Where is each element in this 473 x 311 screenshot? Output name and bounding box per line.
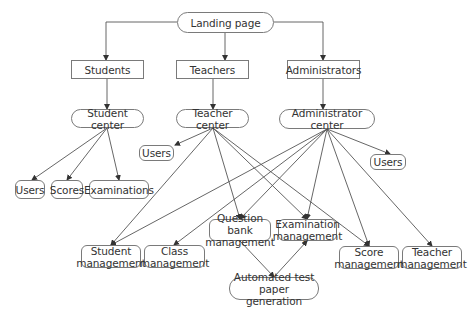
node-teachers[interactable]: Teachers	[176, 60, 249, 79]
edge-arrow	[107, 128, 119, 180]
node-class-management[interactable]: Class management	[144, 245, 205, 268]
edge-arrow	[175, 128, 213, 145]
node-question-bank-management[interactable]: Question bank management	[209, 219, 271, 241]
edge-arrow	[213, 128, 307, 219]
diagram-canvas: Landing page Students Teachers Administr…	[0, 0, 473, 311]
node-students[interactable]: Students	[71, 60, 144, 79]
edge-arrow	[106, 22, 177, 60]
node-student-center[interactable]: Student center	[71, 109, 144, 128]
node-student-management[interactable]: Student management	[81, 245, 141, 268]
node-examinations[interactable]: Examinations	[89, 180, 149, 199]
edge-arrow	[67, 128, 107, 180]
node-administrator-center[interactable]: Administrator center	[279, 109, 375, 129]
edge-arrow	[307, 129, 327, 219]
node-administrators[interactable]: Administrators	[287, 60, 360, 79]
node-landing-page[interactable]: Landing page	[177, 12, 274, 33]
edge-arrow	[327, 129, 390, 154]
node-examination-management[interactable]: Examination management	[278, 219, 337, 241]
node-automated-test-paper-generation[interactable]: Automated test paper generation	[229, 277, 319, 300]
node-admin-users[interactable]: Users	[370, 154, 406, 170]
edge-arrow	[32, 128, 107, 180]
node-teacher-center[interactable]: Teacher center	[176, 109, 249, 128]
node-teacher-management[interactable]: Teacher management	[402, 246, 462, 269]
node-scores[interactable]: Scores	[51, 180, 83, 199]
edge-arrow	[274, 22, 323, 60]
edge-arrow	[240, 129, 327, 219]
edge-arrow	[327, 129, 432, 246]
node-teacher-users[interactable]: Users	[139, 145, 174, 161]
node-score-management[interactable]: Score management	[339, 246, 399, 269]
node-student-users[interactable]: Users	[15, 180, 45, 199]
